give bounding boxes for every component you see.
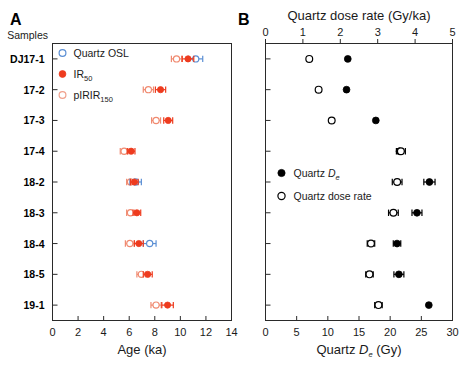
data-point-filled <box>414 209 421 216</box>
x-tick-label: 8 <box>152 326 158 338</box>
legend-label-quartz-osl: Quartz OSL <box>74 47 130 59</box>
panel-a-legend: Quartz OSLIR50pIRIR150 <box>59 47 129 104</box>
panel-a-data <box>120 56 202 309</box>
data-point-filled <box>164 302 170 308</box>
data-point-open <box>315 86 322 93</box>
bottom-x-tick-label: 0 <box>262 326 268 338</box>
legend-label-quartz-dose-rate: Quartz dose rate <box>294 190 372 202</box>
x-tick-label: 10 <box>174 326 186 338</box>
data-point-filled <box>372 117 379 124</box>
series-quartz-de <box>343 55 435 308</box>
bottom-x-tick-label: 15 <box>353 326 365 338</box>
panel-a-y-axis: DJ17-117-217-317-418-218-318-418-519-1 <box>10 53 57 311</box>
panel-b-bottom-axis-title: Quartz De (Gy) <box>316 342 401 359</box>
data-point-open <box>394 179 401 186</box>
sample-label-18-5: 18-5 <box>23 268 44 280</box>
sample-label-18-3: 18-3 <box>23 207 44 219</box>
top-x-tick-label: 2 <box>337 26 343 38</box>
data-point-open <box>121 148 127 154</box>
top-x-tick-label: 4 <box>412 26 418 38</box>
legend-label-ir: IR50 <box>74 68 93 83</box>
data-point-open <box>153 117 159 123</box>
x-tick-label: 14 <box>225 326 237 338</box>
samples-axis-header: Samples <box>7 29 48 41</box>
data-point-filled <box>134 210 140 216</box>
series-quartz-dose-rate <box>306 55 406 308</box>
top-x-tick-label: 5 <box>449 26 455 38</box>
bottom-x-tick-label: 30 <box>446 326 458 338</box>
panel-a-letter: A <box>10 11 22 28</box>
legend-marker-filled-circle <box>278 169 285 176</box>
top-x-tick-label: 0 <box>262 26 268 38</box>
panel-a-x-axis: 02468101214 <box>49 316 237 338</box>
bottom-x-tick-label: 10 <box>322 326 334 338</box>
data-point-filled <box>344 55 351 62</box>
legend-marker-open-circle <box>59 92 66 99</box>
x-tick-label: 4 <box>101 326 107 338</box>
data-point-open <box>390 209 397 216</box>
panel-b-data <box>306 55 435 308</box>
data-point-filled <box>426 179 433 186</box>
data-point-filled <box>157 87 163 93</box>
legend-marker-open-circle <box>278 192 285 199</box>
data-point-filled <box>394 240 401 247</box>
sample-label-17-4: 17-4 <box>23 145 44 157</box>
panel-b-top-axis-title: Quartz dose rate (Gy/ka) <box>287 8 430 23</box>
data-point-filled <box>343 86 350 93</box>
panel-a-plot-frame <box>53 44 232 321</box>
data-point-filled <box>136 240 142 246</box>
data-point-filled <box>131 179 137 185</box>
x-tick-label: 2 <box>75 326 81 338</box>
sample-label-dj17-1: DJ17-1 <box>10 53 45 65</box>
figure-canvas: ASamples02468101214Age (ka)DJ17-117-217-… <box>0 0 467 369</box>
bottom-x-tick-label: 20 <box>384 326 396 338</box>
series-ir50 <box>127 56 193 309</box>
figure-root: ASamples02468101214Age (ka)DJ17-117-217-… <box>0 0 467 369</box>
panel-b-y-axis <box>266 59 271 305</box>
data-point-filled <box>425 302 432 309</box>
top-x-tick-label: 1 <box>300 26 306 38</box>
legend-label-pirir: pIRIR150 <box>74 89 113 104</box>
sample-label-19-1: 19-1 <box>23 299 44 311</box>
legend-label-quartz-d: Quartz De <box>294 167 340 182</box>
panel-a: ASamples02468101214Age (ka)DJ17-117-217-… <box>7 11 237 357</box>
data-point-filled <box>165 117 171 123</box>
data-point-filled <box>395 271 402 278</box>
data-point-open <box>366 271 373 278</box>
data-point-filled <box>145 271 151 277</box>
x-tick-label: 6 <box>126 326 132 338</box>
sample-label-17-2: 17-2 <box>23 84 44 96</box>
data-point-open <box>145 87 151 93</box>
panel-a-x-axis-title: Age (ka) <box>117 342 166 357</box>
bottom-x-tick-label: 25 <box>415 326 427 338</box>
data-point-open <box>153 302 159 308</box>
panel-b-letter: B <box>238 11 250 28</box>
data-point-open <box>375 302 382 309</box>
bottom-x-tick-label: 5 <box>294 326 300 338</box>
panel-b-bottom-axis: 051015202530 <box>262 316 458 338</box>
sample-label-17-3: 17-3 <box>23 114 44 126</box>
legend-marker-open-circle <box>59 50 66 57</box>
data-point-open <box>306 55 313 62</box>
data-point-open <box>368 240 375 247</box>
x-tick-label: 12 <box>200 326 212 338</box>
data-point-filled <box>185 56 191 62</box>
data-point-open <box>147 240 153 246</box>
data-point-open <box>397 148 404 155</box>
data-point-filled <box>128 148 134 154</box>
data-point-open <box>328 117 335 124</box>
sample-label-18-2: 18-2 <box>23 176 44 188</box>
panel-b-legend: Quartz DeQuartz dose rate <box>278 167 372 202</box>
x-tick-label: 0 <box>49 326 55 338</box>
top-x-tick-label: 3 <box>375 26 381 38</box>
sample-label-18-4: 18-4 <box>23 238 44 250</box>
panel-b: B012345Quartz dose rate (Gy/ka)051015202… <box>238 8 459 359</box>
data-point-open <box>127 240 133 246</box>
legend-marker-filled-circle <box>59 71 66 78</box>
panel-b-top-axis: 012345 <box>262 26 455 44</box>
data-point-open <box>173 56 179 62</box>
series-quartz-osl <box>130 56 203 247</box>
